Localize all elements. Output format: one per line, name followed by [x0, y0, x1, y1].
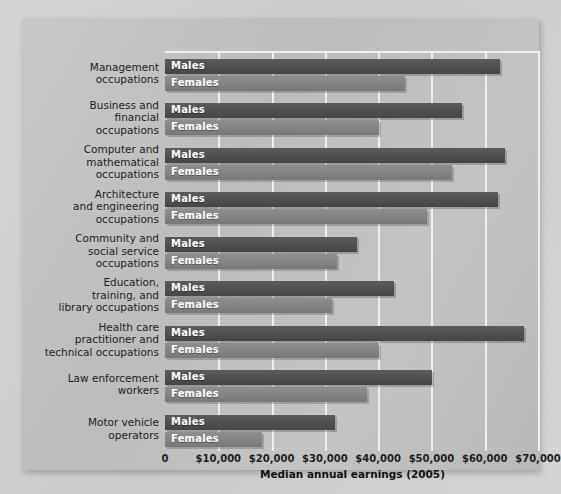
bar-label-female: Females	[171, 121, 219, 132]
category-label: Business andfinancialoccupations	[33, 99, 165, 137]
bar-female[interactable]: Females	[165, 387, 367, 402]
category-label: Health carepractitioner andtechnical occ…	[33, 321, 165, 359]
category-label-line: Architecture	[33, 188, 159, 201]
category-label-line: Business and	[33, 99, 159, 112]
bar-row-male: Males	[165, 237, 538, 252]
bar-label-male: Males	[171, 416, 205, 427]
plot-inner: MalesFemalesMalesFemalesMalesFemalesMale…	[165, 53, 538, 451]
bar-row-male: Males	[165, 192, 538, 207]
plot-area: MalesFemalesMalesFemalesMalesFemalesMale…	[165, 51, 540, 451]
bar-female[interactable]: Females	[165, 76, 405, 91]
bar-male[interactable]: Males	[165, 370, 432, 385]
bar-male[interactable]: Males	[165, 326, 524, 341]
x-axis-title: Median annual earnings (2005)	[165, 468, 540, 480]
bar-label-female: Females	[171, 388, 219, 399]
bar-row-male: Males	[165, 103, 538, 118]
bar-male[interactable]: Males	[165, 281, 394, 296]
bar-label-female: Females	[171, 210, 219, 221]
bar-row-female: Females	[165, 120, 538, 135]
category-label-line: financial	[33, 111, 159, 124]
category-label: Education,training, andlibrary occupatio…	[33, 276, 165, 314]
x-tick-label: $40,000	[355, 453, 401, 464]
bar-label-male: Males	[171, 193, 205, 204]
category-label: Architectureand engineeringoccupations	[33, 188, 165, 226]
bar-label-female: Females	[171, 166, 219, 177]
category-label-line: occupations	[33, 257, 159, 270]
x-tick-label: $70,000	[515, 453, 561, 464]
bar-row-male: Males	[165, 59, 538, 74]
category-label-line: Computer and	[33, 143, 159, 156]
bar-female[interactable]: Females	[165, 209, 427, 224]
category-label-line: Motor vehicle	[33, 416, 159, 429]
bar-label-female: Females	[171, 344, 219, 355]
category-label-line: Law enforcement	[33, 372, 159, 385]
x-tick-label: $30,000	[302, 453, 348, 464]
bar-female[interactable]: Females	[165, 165, 452, 180]
bar-row-male: Males	[165, 370, 538, 385]
bar-label-male: Males	[171, 238, 205, 249]
x-tick-label: $50,000	[409, 453, 455, 464]
bar-label-female: Females	[171, 299, 219, 310]
bar-male[interactable]: Males	[165, 237, 357, 252]
bar-label-male: Males	[171, 327, 205, 338]
bar-row-male: Males	[165, 148, 538, 163]
category-label-line: Management	[33, 61, 159, 74]
category-label-line: Health care	[33, 321, 159, 334]
category-label-line: occupations	[33, 124, 159, 137]
category-label: Computer andmathematicaloccupations	[33, 143, 165, 181]
bar-row-female: Females	[165, 165, 538, 180]
bar-row-female: Females	[165, 387, 538, 402]
chart-figure: ManagementoccupationsBusiness andfinanci…	[0, 0, 561, 494]
category-label-line: Community and	[33, 232, 159, 245]
bar-row-male: Males	[165, 281, 538, 296]
bar-label-female: Females	[171, 433, 219, 444]
bar-row-female: Females	[165, 432, 538, 447]
bar-label-male: Males	[171, 371, 205, 382]
bar-row-male: Males	[165, 326, 538, 341]
bar-row-female: Females	[165, 209, 538, 224]
category-label-line: social service	[33, 245, 159, 258]
category-label-line: operators	[33, 429, 159, 442]
bar-label-male: Males	[171, 104, 205, 115]
category-label-line: occupations	[33, 213, 159, 226]
bar-label-male: Males	[171, 149, 205, 160]
bar-male[interactable]: Males	[165, 148, 505, 163]
bar-male[interactable]: Males	[165, 192, 498, 207]
bar-male[interactable]: Males	[165, 415, 335, 430]
bar-female[interactable]: Females	[165, 254, 337, 269]
bar-row-female: Females	[165, 254, 538, 269]
bar-row-female: Females	[165, 343, 538, 358]
category-label: Managementoccupations	[33, 61, 165, 86]
x-tick-label: $60,000	[462, 453, 508, 464]
category-label-column: ManagementoccupationsBusiness andfinanci…	[22, 51, 165, 451]
bar-female[interactable]: Females	[165, 432, 262, 447]
bar-female[interactable]: Females	[165, 298, 332, 313]
category-label: Motor vehicleoperators	[33, 416, 165, 441]
bar-female[interactable]: Females	[165, 343, 379, 358]
category-label-line: occupations	[33, 73, 159, 86]
category-label-line: mathematical	[33, 156, 159, 169]
bar-label-male: Males	[171, 60, 205, 71]
bar-female[interactable]: Females	[165, 120, 379, 135]
category-label-line: library occupations	[33, 301, 159, 314]
x-tick-label: $20,000	[249, 453, 295, 464]
bar-label-female: Females	[171, 255, 219, 266]
bar-male[interactable]: Males	[165, 103, 462, 118]
category-label-line: practitioner and	[33, 333, 159, 346]
category-label-line: occupations	[33, 168, 159, 181]
category-label: Law enforcementworkers	[33, 372, 165, 397]
bar-row-male: Males	[165, 415, 538, 430]
category-label: Community andsocial serviceoccupations	[33, 232, 165, 270]
category-label-line: Education,	[33, 276, 159, 289]
x-tick-label: 0	[162, 453, 169, 464]
category-label-line: technical occupations	[33, 346, 159, 359]
bar-row-female: Females	[165, 298, 538, 313]
chart-card: ManagementoccupationsBusiness andfinanci…	[22, 18, 539, 470]
bar-row-female: Females	[165, 76, 538, 91]
x-tick-label: $10,000	[196, 453, 242, 464]
bar-label-male: Males	[171, 282, 205, 293]
category-label-line: training, and	[33, 289, 159, 302]
gridline	[538, 53, 540, 451]
category-label-line: workers	[33, 384, 159, 397]
bar-male[interactable]: Males	[165, 59, 500, 74]
